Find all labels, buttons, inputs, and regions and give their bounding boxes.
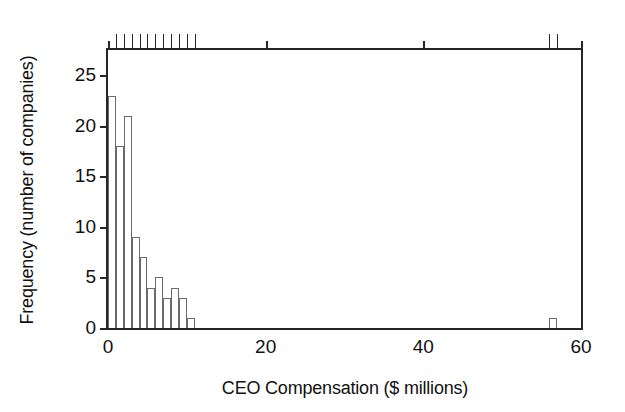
plot-area [108, 50, 581, 328]
histogram-bar [171, 288, 179, 328]
histogram-bar [124, 116, 132, 328]
x-axis-tick [581, 41, 583, 50]
x-axis-minor-tick [549, 34, 550, 50]
x-axis-tick-label: 0 [103, 336, 114, 358]
y-axis-tick-label: 5 [85, 266, 96, 288]
y-axis-tick [100, 75, 108, 77]
x-axis-tick [108, 41, 110, 50]
histogram-bar [163, 298, 171, 328]
y-axis-tick-label: 10 [75, 216, 96, 238]
y-axis-tick-label: 25 [75, 64, 96, 86]
histogram-bar [155, 277, 163, 328]
y-axis-tick [100, 328, 108, 330]
x-axis-minor-tick [147, 34, 148, 50]
y-axis-tick-label: 20 [75, 115, 96, 137]
histogram-bar [179, 298, 187, 328]
x-axis-minor-tick [155, 34, 156, 50]
y-axis-tick [100, 277, 108, 279]
x-axis-minor-tick [557, 34, 558, 50]
y-axis-tick-label: 0 [85, 317, 96, 339]
histogram-bar [132, 237, 140, 328]
y-axis-tick-label: 15 [75, 165, 96, 187]
y-axis-tick [100, 176, 108, 178]
histogram-bar [140, 257, 148, 328]
x-axis-tick [266, 41, 268, 50]
x-axis-title: CEO Compensation ($ millions) [106, 378, 584, 399]
x-axis-minor-tick [187, 34, 188, 50]
histogram-figure: Frequency (number of companies) 05101520… [0, 0, 625, 412]
histogram-bar [549, 318, 557, 328]
histogram-bar [147, 288, 155, 328]
x-axis-minor-tick [132, 34, 133, 50]
x-axis-minor-tick [124, 34, 125, 50]
y-axis-tick [100, 227, 108, 229]
x-axis-tick-label: 20 [255, 336, 276, 358]
x-axis-tick-label: 60 [570, 336, 591, 358]
histogram-bar [116, 146, 124, 328]
x-axis-minor-tick [171, 34, 172, 50]
y-axis-title: Frequency (number of companies) [10, 20, 44, 360]
histogram-bar [108, 96, 116, 329]
y-axis-tick [100, 126, 108, 128]
x-axis-minor-tick [163, 34, 164, 50]
x-axis-minor-tick [140, 34, 141, 50]
histogram-bar [187, 318, 195, 328]
x-axis-minor-tick [179, 34, 180, 50]
x-axis-tick-label: 40 [413, 336, 434, 358]
x-axis-tick [423, 41, 425, 50]
x-axis-minor-tick [116, 34, 117, 50]
plot-frame: 0510152025 0204060 [106, 48, 583, 330]
x-axis-minor-tick [195, 34, 196, 50]
